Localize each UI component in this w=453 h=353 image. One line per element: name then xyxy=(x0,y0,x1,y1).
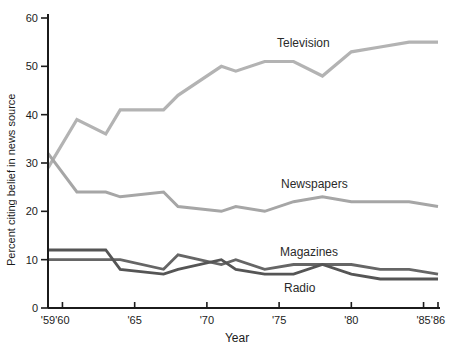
chart-canvas xyxy=(0,0,453,353)
x-tick-65: '65 xyxy=(127,314,141,326)
x-tick-70: '70 xyxy=(200,314,214,326)
y-tick-60: 60 xyxy=(12,12,38,24)
x-axis-title: Year xyxy=(225,331,249,345)
x-tick-60: '60 xyxy=(55,314,69,326)
line-chart-figure: 0102030405060 '59'60'65'70'75'80'85'86 T… xyxy=(0,0,453,353)
series-label-newspapers: Newspapers xyxy=(281,177,348,191)
series-label-television: Television xyxy=(277,36,330,50)
series-label-magazines: Magazines xyxy=(280,245,338,259)
y-tick-0: 0 xyxy=(12,302,38,314)
line-newspapers xyxy=(48,153,438,211)
x-tick-85: '85 xyxy=(416,314,430,326)
line-television xyxy=(48,42,438,168)
x-tick-59: '59 xyxy=(41,314,55,326)
x-tick-75: '75 xyxy=(272,314,286,326)
axes xyxy=(41,14,440,308)
x-tick-86: '86 xyxy=(431,314,445,326)
line-radio xyxy=(48,250,438,279)
y-axis-title: Percent citing belief in news source xyxy=(4,60,18,300)
series-label-radio: Radio xyxy=(284,281,315,295)
series-lines xyxy=(48,42,438,279)
x-tick-80: '80 xyxy=(344,314,358,326)
